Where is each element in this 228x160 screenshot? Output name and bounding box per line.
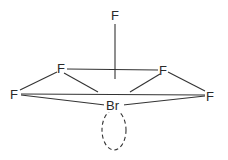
edge-front xyxy=(21,94,205,95)
bond-br-front-right xyxy=(123,96,205,105)
bond-br-back-right xyxy=(130,74,160,92)
atom-br-central: Br xyxy=(106,98,120,113)
edge-left xyxy=(20,72,57,90)
lone-pair-orbital xyxy=(102,110,126,150)
brf5-diagram: F F F F F Br xyxy=(0,0,228,160)
atom-f-back-right: F xyxy=(159,63,167,78)
atom-f-back-left: F xyxy=(57,61,65,76)
bond-br-front-left xyxy=(21,95,105,105)
atom-f-front-right: F xyxy=(206,89,214,104)
atom-f-front-left: F xyxy=(10,87,18,102)
atom-f-axial: F xyxy=(111,8,119,23)
edge-back xyxy=(67,69,158,70)
bond-br-back-left xyxy=(64,73,98,92)
edge-right xyxy=(168,72,205,91)
